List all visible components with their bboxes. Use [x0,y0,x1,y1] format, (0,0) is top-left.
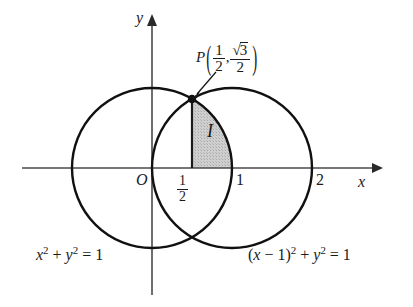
fraction-x-coordinate: 1 2 [213,43,225,76]
close-paren: ) [251,42,258,76]
left-circle-equation: x2 + y2 = 1 [36,245,103,263]
x-tick-label-half: 1 2 [176,174,189,204]
eq-rhs: 1 [95,246,103,263]
y-axis-label: y [136,10,143,26]
eq-rhs: 1 [343,246,351,263]
fraction-denominator: 2 [177,190,188,205]
eq-equals: = [82,246,91,263]
x-tick-label-2: 2 [316,172,324,188]
fraction-denominator: 2 [230,60,250,76]
fraction-y-coordinate: √3 2 [230,42,250,76]
geometry-figure: y x O I 1 2 1 2 P( 1 2 , √3 2 ) x2 + y2 … [0,0,413,307]
eq-exponent-y: 2 [73,244,78,256]
eq-equals: = [330,246,339,263]
eq-term-y: y [66,246,73,263]
eq-term-x: x [253,246,260,263]
eq-minus: − [264,246,273,263]
fraction-numerator: 1 [213,43,225,60]
right-circle-equation: (x − 1)2 + y2 = 1 [248,245,351,263]
x-axis-label: x [358,174,365,190]
coordinate-comma: , [226,49,230,65]
x-tick-label-1: 1 [236,172,244,188]
eq-exponent-y: 2 [320,244,325,256]
fraction-numerator: √3 [230,42,250,60]
eq-exponent-group: 2 [291,244,296,256]
eq-plus: + [300,246,309,263]
point-p-label: P( 1 2 , √3 2 ) [196,42,258,76]
eq-plus: + [53,246,62,263]
fraction-denominator: 2 [213,59,225,75]
point-p-leader-arrow [192,72,216,99]
origin-label: O [136,172,148,188]
fraction-numerator: 1 [177,174,188,190]
region-label-I: I [207,122,213,140]
fraction-one-half: 1 2 [177,174,188,204]
eq-exponent-x: 2 [43,244,48,256]
point-p-name: P [196,49,205,65]
open-paren: ( [205,42,212,76]
radicand: 3 [240,42,249,59]
